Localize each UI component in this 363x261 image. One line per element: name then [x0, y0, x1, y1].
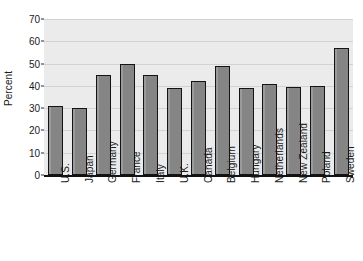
y-axis-tick-label: 20 [29, 125, 40, 136]
y-axis-tick-label: 10 [29, 147, 40, 158]
y-axis-tick-label: 30 [29, 103, 40, 114]
bar-chart: Percent 010203040506070 U.S.JapanGermany… [0, 0, 363, 261]
y-axis-tick-label: 70 [29, 14, 40, 25]
y-axis-title-label: Percent [4, 70, 15, 105]
bar [167, 88, 182, 175]
y-axis-tick-label: 50 [29, 58, 40, 69]
y-axis-tick-label: 0 [34, 170, 40, 181]
x-axis-tick-labels: U.S.JapanGermanyFranceItalyU.K.CanadaBel… [44, 178, 353, 261]
bar [143, 75, 158, 175]
y-axis-tick-label: 60 [29, 36, 40, 47]
y-axis-tick-labels: 010203040506070 [18, 0, 44, 176]
y-axis-title: Percent [0, 0, 18, 176]
y-axis-tick-label: 40 [29, 80, 40, 91]
